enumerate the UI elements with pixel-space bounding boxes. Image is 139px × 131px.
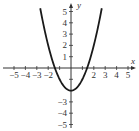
axes	[3, 3, 136, 128]
y-tick-label: 3	[63, 29, 68, 39]
x-tick-label: −5	[9, 70, 19, 80]
y-tick-label: −5	[57, 120, 67, 130]
x-tick-label: 4	[114, 70, 119, 80]
y-tick-label: −3	[57, 97, 67, 107]
y-tick-label: 1	[63, 52, 68, 62]
y-tick-label: 4	[63, 18, 68, 28]
x-tick-label: 3	[103, 70, 108, 80]
y-axis-label: y	[76, 0, 81, 10]
y-axis-arrow-icon	[69, 3, 73, 8]
x-tick-label: −4	[21, 70, 31, 80]
y-tick-label: −4	[57, 108, 67, 118]
x-tick-label: −3	[32, 70, 42, 80]
x-axis-arrow-icon	[131, 66, 136, 70]
x-axis-label: x	[130, 56, 135, 66]
x-tick-label: 5	[126, 70, 131, 80]
parabola-graph: −5−4−3−2234554321−3−4−5xy	[0, 0, 139, 131]
y-tick-label: 5	[63, 7, 68, 17]
tick-labels: −5−4−3−2234554321−3−4−5xy	[9, 0, 135, 130]
y-tick-label: 2	[63, 40, 68, 50]
x-tick-label: −2	[43, 70, 53, 80]
x-tick-label: 2	[92, 70, 97, 80]
